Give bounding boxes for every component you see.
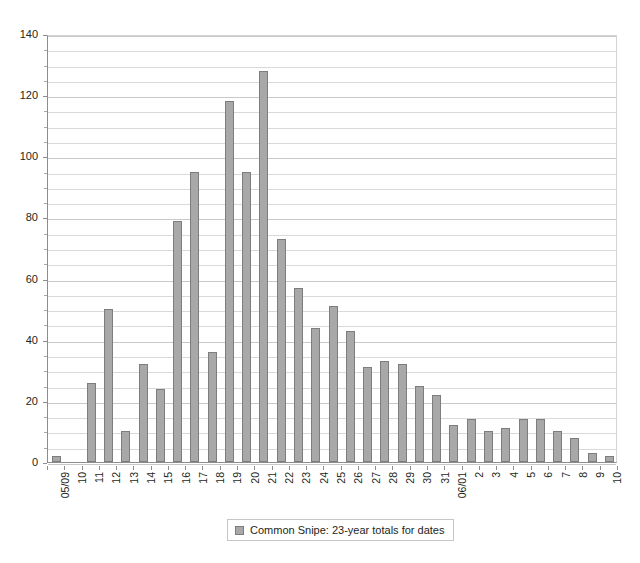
- x-axis-tick: [272, 466, 273, 470]
- x-axis-tick-label: 4: [509, 472, 520, 478]
- x-axis-tick-label: 13: [129, 472, 140, 484]
- x-axis-tick-label: 12: [111, 472, 122, 484]
- y-axis-tick-label: 120: [20, 90, 38, 101]
- plot-area: [47, 35, 617, 463]
- y-axis-tick-label: 100: [20, 151, 38, 162]
- x-axis-tick: [565, 466, 566, 470]
- bar: [398, 364, 407, 462]
- bar: [605, 456, 614, 462]
- x-axis: 05/0910111213141516171819202122232425262…: [47, 466, 617, 526]
- bar: [277, 239, 286, 462]
- bar: [121, 431, 130, 462]
- x-axis-tick: [617, 466, 618, 470]
- legend-swatch-icon: [235, 526, 244, 535]
- bar: [346, 331, 355, 462]
- x-axis-tick: [410, 466, 411, 470]
- x-axis-tick-label: 3: [491, 472, 502, 478]
- x-axis-tick-label: 14: [146, 472, 157, 484]
- x-axis-tick: [99, 466, 100, 470]
- x-axis-tick: [64, 466, 65, 470]
- bar-series: [48, 36, 616, 462]
- bar: [190, 172, 199, 462]
- x-axis-tick: [116, 466, 117, 470]
- x-axis-tick: [531, 466, 532, 470]
- bar: [329, 306, 338, 462]
- y-axis-tick-label: 80: [26, 212, 38, 223]
- x-axis-tick-label: 31: [440, 472, 451, 484]
- bar: [156, 389, 165, 462]
- bar: [225, 101, 234, 462]
- bar: [570, 438, 579, 462]
- x-axis-tick-label: 2: [474, 472, 485, 478]
- bar: [139, 364, 148, 462]
- x-axis-tick: [202, 466, 203, 470]
- x-axis-tick-label: 20: [250, 472, 261, 484]
- x-axis-tick-label: 9: [595, 472, 606, 478]
- x-axis-tick: [462, 466, 463, 470]
- bar: [208, 352, 217, 462]
- y-axis-tick-label: 140: [20, 29, 38, 40]
- x-axis-tick: [341, 466, 342, 470]
- x-axis-tick-label: 27: [371, 472, 382, 484]
- x-axis-tick: [496, 466, 497, 470]
- x-axis-tick: [133, 466, 134, 470]
- x-axis-tick-label: 19: [232, 472, 243, 484]
- x-axis-tick-label: 25: [336, 472, 347, 484]
- x-axis-tick-label: 06/01: [457, 472, 468, 498]
- x-axis-tick-label: 17: [198, 472, 209, 484]
- x-axis-tick: [479, 466, 480, 470]
- bar: [311, 328, 320, 463]
- x-axis-tick: [427, 466, 428, 470]
- x-axis-tick-label: 10: [612, 472, 623, 484]
- bar: [588, 453, 597, 462]
- x-axis-tick-label: 22: [284, 472, 295, 484]
- x-axis-tick-label: 30: [422, 472, 433, 484]
- x-axis-tick: [358, 466, 359, 470]
- x-axis-tick-label: 29: [405, 472, 416, 484]
- x-axis-tick-label: 23: [301, 472, 312, 484]
- x-axis-tick: [151, 466, 152, 470]
- x-axis-tick: [254, 466, 255, 470]
- x-axis-tick-label: 24: [319, 472, 330, 484]
- bar: [484, 431, 493, 462]
- x-axis-tick-label: 11: [94, 472, 105, 483]
- x-axis-tick: [582, 466, 583, 470]
- bar: [363, 367, 372, 462]
- x-axis-tick-label: 15: [163, 472, 174, 484]
- bar: [52, 456, 61, 462]
- x-axis-tick-label: 28: [388, 472, 399, 484]
- x-axis-tick: [185, 466, 186, 470]
- bar: [380, 361, 389, 462]
- bar: [501, 428, 510, 462]
- x-axis-tick-label: 5: [526, 472, 537, 478]
- x-axis-tick: [375, 466, 376, 470]
- bar: [553, 431, 562, 462]
- x-axis-tick: [548, 466, 549, 470]
- x-axis-tick: [513, 466, 514, 470]
- x-axis-tick: [168, 466, 169, 470]
- y-axis-tick-label: 20: [26, 396, 38, 407]
- x-axis-tick: [306, 466, 307, 470]
- x-axis-tick-label: 7: [561, 472, 572, 478]
- x-axis-tick: [600, 466, 601, 470]
- bar: [432, 395, 441, 462]
- x-axis-tick: [444, 466, 445, 470]
- x-axis-tick: [237, 466, 238, 470]
- gridline: [48, 464, 616, 465]
- x-axis-tick: [220, 466, 221, 470]
- x-axis-tick-label: 6: [543, 472, 554, 478]
- y-axis-tick-label: 0: [32, 457, 38, 468]
- legend-label: Common Snipe: 23-year totals for dates: [250, 524, 444, 536]
- x-axis-tick: [323, 466, 324, 470]
- x-axis-tick-label: 21: [267, 472, 278, 484]
- bar-chart: 020406080100120140 05/091011121314151617…: [0, 0, 640, 563]
- bar: [173, 221, 182, 463]
- x-axis-tick-label: 8: [578, 472, 589, 478]
- x-axis-tick: [47, 466, 48, 470]
- y-axis: 020406080100120140: [0, 0, 47, 500]
- bar: [104, 309, 113, 462]
- x-axis-tick: [392, 466, 393, 470]
- x-axis-tick-label: 26: [353, 472, 364, 484]
- y-axis-tick-label: 40: [26, 335, 38, 346]
- x-axis-tick-label: 05/09: [60, 472, 71, 498]
